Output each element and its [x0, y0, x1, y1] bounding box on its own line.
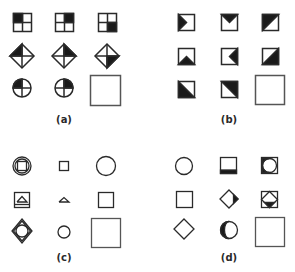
panel-c-graphic	[0, 136, 148, 272]
square-quadrants-bottom-right-icon	[99, 14, 117, 32]
square-diamond-black-bottom-icon	[262, 192, 278, 208]
circle-icon	[97, 157, 116, 176]
square-circle-black-left-icon	[262, 158, 278, 174]
answer-blank-box	[256, 218, 285, 247]
diamond-with-circle-icon	[12, 219, 32, 243]
circle-quadrants-top-left-icon	[13, 79, 31, 97]
square-triangle-left-icon	[179, 15, 195, 31]
square-triangle-bottom-icon	[179, 49, 195, 65]
diamond-black-right-icon	[220, 190, 238, 208]
circle-with-square-icon	[13, 157, 31, 175]
answer-blank-box	[256, 76, 285, 105]
square-with-triangle-icon	[15, 193, 30, 208]
panel-label: (c)	[56, 252, 71, 263]
circle-black-left-icon	[221, 222, 238, 239]
square-half-bottom-right-icon	[263, 49, 279, 65]
answer-blank-box	[91, 76, 121, 106]
diamond-quadrants-right-bottom-icon	[95, 44, 119, 68]
panel-label: (d)	[221, 252, 237, 263]
square-black-bottom-icon	[221, 158, 237, 174]
square-triangle-top-icon	[222, 15, 238, 31]
diamond-quadrants-right-top-icon	[52, 44, 76, 68]
small-square-icon	[60, 162, 69, 171]
panel-a-graphic	[0, 0, 148, 136]
square-half-top-left-icon	[263, 15, 279, 31]
square-quadrants-top-right-icon	[56, 14, 74, 32]
square-half-top-right-icon	[222, 82, 238, 98]
panel-label: (a)	[56, 114, 72, 125]
square-icon	[177, 192, 193, 208]
small-circle-icon	[58, 226, 70, 238]
panel-label: (b)	[221, 114, 237, 125]
small-triangle-icon	[59, 198, 69, 203]
diamond-quadrants-left-top-icon	[10, 44, 34, 68]
panel-a: (a)	[0, 0, 148, 136]
square-triangle-right-icon	[222, 49, 238, 65]
square-quadrants-top-left-icon	[14, 14, 32, 32]
panel-c: (c)	[0, 136, 148, 272]
diamond-icon	[174, 219, 194, 239]
panel-d: (d)	[148, 136, 295, 272]
answer-blank-box	[92, 219, 121, 248]
circle-icon	[176, 158, 193, 175]
circle-quadrants-top-right-icon	[55, 79, 73, 97]
square-icon	[99, 193, 114, 208]
panel-b: (b)	[148, 0, 295, 136]
square-half-bottom-left-icon	[179, 82, 195, 98]
